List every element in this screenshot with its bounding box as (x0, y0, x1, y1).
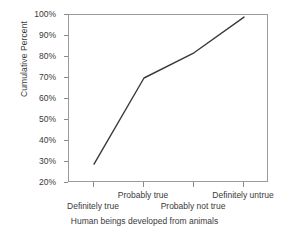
y-axis-tick-label: 80% (39, 51, 56, 61)
y-axis-tick-label: 20% (39, 177, 56, 187)
y-axis-tick-label: 50% (39, 114, 56, 124)
x-axis-title: Human beings developed from animals (0, 216, 289, 226)
x-axis-category-label: Probably true (118, 190, 169, 200)
x-axis-category-label: Definitely true (67, 201, 119, 211)
x-axis-category-label: Probably not true (161, 201, 226, 211)
y-axis-tick-labels: 100%90%80%70%60%50%40%30%20% (0, 0, 64, 235)
x-axis-category-label: Definitely untrue (212, 190, 273, 200)
y-axis-tick-label: 90% (39, 30, 56, 40)
plot-area (68, 14, 268, 182)
x-axis-tick-mark (93, 182, 94, 187)
x-axis-tick-mark (193, 182, 194, 187)
y-axis-tick-label: 60% (39, 93, 56, 103)
x-axis-tick-mark (143, 182, 144, 187)
y-axis-tick-label: 70% (39, 72, 56, 82)
cumulative-percent-line-chart: Cumulative Percent 100%90%80%70%60%50%40… (0, 0, 289, 235)
y-axis-tick-label: 100% (34, 9, 56, 19)
y-axis-tick-label: 30% (39, 156, 56, 166)
y-axis-tick-label: 40% (39, 135, 56, 145)
y-axis-tick-mark (64, 182, 68, 183)
x-axis-tick-mark (243, 182, 244, 187)
data-line-svg (69, 15, 269, 183)
cumulative-percent-line (94, 17, 244, 164)
